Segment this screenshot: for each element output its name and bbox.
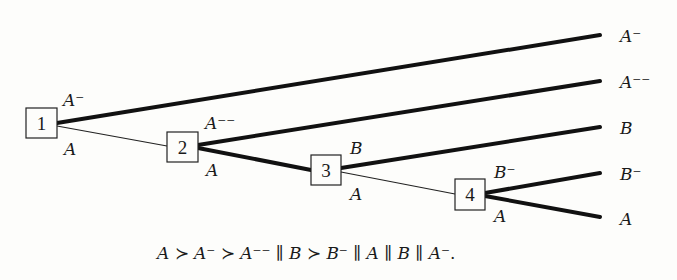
edge-label-2-lower: A: [204, 160, 218, 180]
edge-label-3-upper: B: [349, 138, 363, 158]
edge-1-to-A-minus: [57, 35, 600, 123]
edge-label-1-upper: A⁻: [61, 90, 84, 110]
edge-label-3-lower: A: [348, 184, 362, 204]
edge-label-4-lower: A: [492, 206, 506, 226]
node-2: 2: [167, 132, 198, 162]
node-2-label: 2: [178, 137, 188, 158]
edge-label-4-upper: B⁻: [493, 162, 515, 182]
edge-label-1-lower: A: [62, 139, 76, 159]
leaf-label-A-minus: A⁻: [618, 26, 641, 46]
node-4: 4: [455, 179, 485, 210]
leaf-label-B-minus: B⁻: [619, 164, 641, 184]
preference-formula: A ≻ A⁻ ≻ A⁻⁻ ∥ B ≻ B⁻ ∥ A ∥ B ∥ A⁻.: [155, 243, 455, 263]
leaf-label-A: A: [618, 209, 632, 229]
node-3: 3: [311, 155, 341, 185]
node-1-label: 1: [37, 113, 47, 134]
leaf-label-A-minus-minus: A⁻⁻: [618, 72, 650, 92]
leaf-label-B: B: [619, 118, 633, 138]
edge-3-to-B: [341, 127, 600, 168]
edge-label-2-upper: A⁻⁻: [203, 113, 235, 133]
node-1: 1: [26, 108, 57, 138]
node-3-label: 3: [321, 160, 331, 181]
decision-tree-diagram: 1 2 3 4 A⁻ A A⁻⁻ A B A B⁻ A A⁻ A⁻⁻ B B⁻ …: [0, 0, 677, 280]
node-4-label: 4: [465, 184, 475, 205]
